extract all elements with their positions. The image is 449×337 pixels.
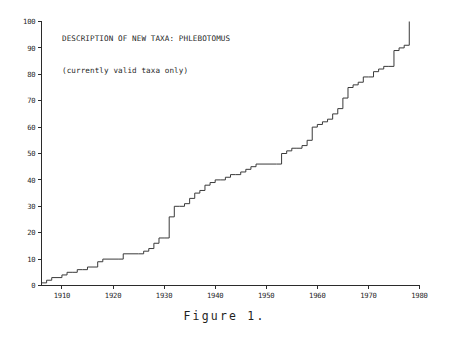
x-tick-label: 1910: [54, 291, 71, 300]
figure-caption: Figure 1.: [0, 309, 449, 323]
y-tick-label: 60: [27, 123, 35, 132]
chart-plot-area: 0102030405060708090100 19101920193019401…: [0, 0, 449, 337]
y-tick-label: 100: [23, 17, 35, 26]
y-tick-label: 80: [27, 70, 35, 79]
x-tick-label: 1970: [360, 291, 377, 300]
figure-container: DESCRIPTION OF NEW TAXA: PHLEBOTOMUS (cu…: [0, 0, 449, 337]
y-tick-label: 0: [31, 281, 35, 290]
y-tick-label: 40: [27, 176, 35, 185]
x-axis: 19101920193019401950196019701980: [42, 286, 428, 301]
x-tick-label: 1960: [309, 291, 326, 300]
x-tick-label: 1980: [411, 291, 428, 300]
series-step-line: [42, 22, 410, 283]
x-tick-label: 1950: [258, 291, 275, 300]
y-tick-label: 70: [27, 96, 35, 105]
y-tick-label: 30: [27, 202, 35, 211]
x-tick-label: 1920: [105, 291, 122, 300]
x-tick-label: 1930: [156, 291, 173, 300]
y-tick-label: 20: [27, 228, 35, 237]
y-axis: 0102030405060708090100: [23, 17, 41, 290]
y-tick-label: 10: [27, 255, 35, 264]
y-tick-label: 90: [27, 44, 35, 53]
y-tick-label: 50: [27, 149, 35, 158]
x-tick-label: 1940: [207, 291, 224, 300]
data-series-group: [42, 22, 410, 283]
